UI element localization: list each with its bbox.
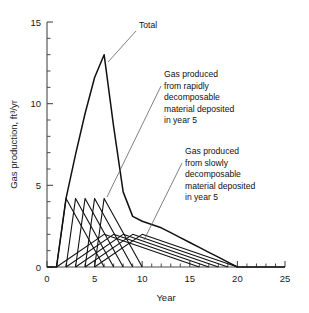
x-tick-label: 25 [280, 273, 291, 284]
gas-production-chart: 0510152025051015 TotalGas producedfrom r… [0, 0, 309, 313]
x-tick-label: 20 [232, 273, 243, 284]
y-tick-label: 5 [36, 180, 41, 191]
x-tick-label: 5 [92, 273, 97, 284]
x-tick-label: 10 [137, 273, 148, 284]
x-axis-title: Year [156, 292, 175, 303]
annotation-total: Total [139, 20, 157, 30]
y-axis-title: Gas production, ft³/yr [8, 100, 19, 189]
y-tick-label: 15 [30, 17, 41, 28]
y-tick-label: 0 [36, 262, 41, 273]
x-tick-label: 0 [44, 273, 49, 284]
y-tick-label: 10 [30, 98, 41, 109]
plot-background [0, 0, 309, 313]
x-tick-label: 15 [185, 273, 196, 284]
